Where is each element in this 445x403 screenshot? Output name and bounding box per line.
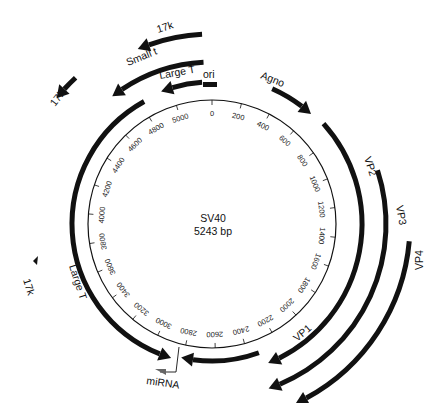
scale-tick: [330, 208, 335, 209]
scale-tick: [158, 331, 160, 335]
scale-tick-label: 3600: [103, 257, 118, 276]
ori-label: ori: [203, 68, 215, 80]
scale-tick-label: 800: [295, 153, 310, 168]
scale-tick-label: 1200: [316, 201, 327, 219]
mirna-label: miRNA: [146, 374, 181, 391]
sv40-genome-map: 0200400600800100012001400160018002000220…: [0, 0, 445, 403]
scale-tick-label: 200: [231, 111, 245, 123]
17k-left-arc: [64, 78, 75, 89]
scale-tick: [149, 117, 152, 121]
scale-tick-label: 1800: [296, 276, 313, 295]
scale-tick: [186, 340, 187, 345]
large-t-inner-label: Large T: [158, 63, 196, 81]
vp4-label: VP4: [413, 250, 425, 270]
scale-tick: [293, 311, 296, 315]
large-t-inner-arc: [172, 82, 202, 87]
scale-tick-label: 3800: [97, 232, 109, 250]
scale-tick-label: 4400: [110, 156, 126, 175]
scale-tick-label: 1400: [317, 227, 328, 245]
agno-label: Agno: [259, 69, 286, 89]
vp2-label: VP2: [362, 155, 380, 178]
scale-tick: [107, 158, 111, 161]
genome-circle: [88, 100, 336, 348]
genome-name: SV40: [200, 212, 226, 224]
scale-tick: [133, 316, 136, 320]
scale-tick-label: 1000: [308, 174, 322, 193]
scale-tick-label: 2000: [278, 296, 296, 314]
scale-tick-label: 2200: [256, 313, 275, 329]
scale-tick-label: 3200: [132, 300, 151, 318]
ori-marker: [203, 82, 217, 87]
scale-tick: [267, 114, 269, 118]
scale-tick: [290, 131, 293, 135]
scale-tick-label: 5000: [171, 111, 190, 124]
scale-tick: [112, 295, 116, 298]
genome-scale-ring: [88, 100, 336, 348]
scale-tick-label: 400: [255, 119, 270, 133]
mirna-pointer-arrowhead: [155, 369, 166, 375]
scale-tick-label: 1600: [309, 252, 323, 271]
scale-tick: [330, 237, 335, 238]
scale-tick-label: 4000: [97, 206, 107, 223]
vp3-arc: [280, 170, 386, 384]
17k-small-arrowhead: [33, 256, 38, 265]
scale-tick-label: 0: [210, 109, 214, 118]
17k-top-label: 17k: [155, 18, 176, 35]
scale-tick: [311, 290, 315, 293]
scale-tick: [243, 339, 244, 344]
agno-arc: [272, 89, 302, 107]
vp3-label: VP3: [394, 204, 409, 226]
scale-tick-label: 3400: [115, 280, 132, 299]
scale-tick-label: 3000: [154, 316, 173, 331]
17k-top-arc: [149, 34, 202, 45]
scale-tick: [94, 185, 99, 187]
scale-tick: [309, 153, 313, 156]
scale-tick: [90, 243, 95, 244]
scale-tick-label: 2400: [232, 324, 250, 337]
vp1-arrowhead: [181, 353, 194, 367]
scale-tick: [126, 135, 129, 139]
scale-tick-label: 4200: [100, 180, 114, 199]
scale-tick-label: 600: [277, 133, 292, 148]
scale-tick: [270, 328, 272, 332]
scale-tick-label: 4800: [147, 121, 166, 137]
feature-arcs: [57, 34, 410, 403]
scale-tick: [324, 264, 329, 266]
scale-tick-label: 2800: [179, 326, 197, 338]
scale-tick: [176, 105, 177, 110]
scale-tick: [240, 104, 241, 109]
scale-tick-label: 2600: [206, 330, 223, 339]
genome-size: 5243 bp: [194, 225, 232, 237]
17k-small-label: 17k: [21, 277, 38, 298]
scale-tick: [323, 179, 328, 181]
scale-tick: [98, 270, 103, 272]
large-t-inner-arrowhead: [161, 81, 174, 94]
vp1-arc: [193, 353, 259, 361]
